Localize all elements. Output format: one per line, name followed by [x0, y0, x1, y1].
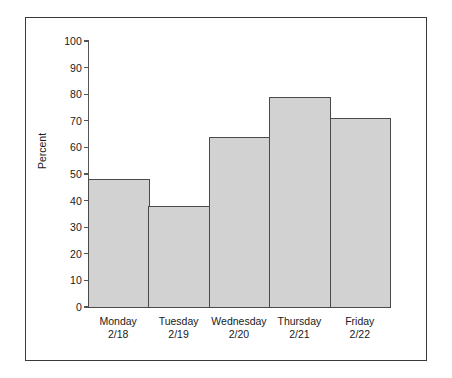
x-tick-label: Monday2/18: [88, 315, 148, 341]
figure-container: Percent 0102030405060708090100 Monday2/1…: [0, 0, 452, 378]
bar: [88, 179, 150, 308]
x-tick-date: 2/18: [88, 328, 148, 341]
y-tick-text: 40: [56, 196, 82, 206]
bar: [148, 206, 210, 308]
y-tick-text: 90: [56, 63, 82, 73]
bar-chart: Percent 0102030405060708090100 Monday2/1…: [0, 0, 452, 378]
x-tick-day: Friday: [330, 315, 390, 328]
y-tick-text: 20: [56, 249, 82, 259]
y-tick-text: 80: [56, 89, 82, 99]
y-tick-mark: [84, 40, 88, 41]
x-tick-date: 2/21: [269, 328, 329, 341]
x-tick-label: Friday2/22: [330, 315, 390, 341]
bar: [330, 118, 392, 308]
x-tick-day: Tuesday: [148, 315, 208, 328]
x-tick-day: Thursday: [269, 315, 329, 328]
x-tick-day: Wednesday: [209, 315, 269, 328]
y-axis-label: Percent: [36, 111, 48, 191]
x-tick-date: 2/20: [209, 328, 269, 341]
y-tick-mark: [84, 67, 88, 68]
y-tick-mark: [84, 94, 88, 95]
x-tick-date: 2/19: [148, 328, 208, 341]
x-tick-label: Thursday2/21: [269, 315, 329, 341]
x-tick-day: Monday: [88, 315, 148, 328]
x-tick-label: Wednesday2/20: [209, 315, 269, 341]
bar: [269, 97, 331, 308]
bar: [209, 137, 271, 308]
y-tick-text: 30: [56, 222, 82, 232]
y-tick-text: 10: [56, 275, 82, 285]
y-tick-text: 0: [56, 302, 82, 312]
y-tick-mark: [84, 147, 88, 148]
y-tick-text: 100: [56, 36, 82, 46]
y-tick-mark: [84, 120, 88, 121]
y-tick-text: 50: [56, 169, 82, 179]
y-tick-mark: [84, 173, 88, 174]
x-tick-label: Tuesday2/19: [148, 315, 208, 341]
y-tick-text: 70: [56, 116, 82, 126]
y-tick-text: 60: [56, 142, 82, 152]
x-tick-date: 2/22: [330, 328, 390, 341]
